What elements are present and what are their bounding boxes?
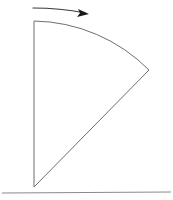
ground-baseline bbox=[2, 192, 171, 193]
figure-canvas bbox=[0, 0, 173, 200]
circular-sector-shape bbox=[34, 21, 149, 187]
rotation-arrow-shaft bbox=[33, 8, 85, 13]
rotation-arrow-head-icon bbox=[77, 9, 89, 17]
diagram-svg bbox=[0, 0, 173, 200]
